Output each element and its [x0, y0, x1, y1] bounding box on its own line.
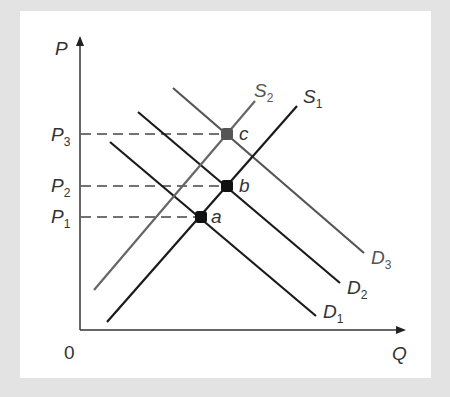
- p2-label: P2: [51, 175, 71, 200]
- p3-label: P3: [51, 124, 71, 149]
- d2-label: D2: [347, 277, 368, 302]
- origin-label: 0: [64, 342, 75, 363]
- d3-label: D3: [371, 247, 392, 272]
- demand-curve-d3: [173, 88, 364, 253]
- point-c-label: c: [239, 123, 249, 144]
- p1-label: P1: [51, 206, 71, 231]
- d1-label: D1: [323, 301, 344, 326]
- point-a-label: a: [211, 206, 222, 227]
- s2-label: S2: [254, 80, 274, 105]
- point-b-label: b: [239, 175, 250, 196]
- supply-demand-diagram: P Q 0 P3 P2 P1 S2 S1 D3 D2 D1 a b c: [0, 0, 450, 397]
- y-axis-label: P: [55, 38, 68, 59]
- point-c: [221, 128, 233, 140]
- point-a: [195, 211, 207, 223]
- s1-label: S1: [303, 86, 323, 111]
- x-axis-label: Q: [392, 343, 407, 364]
- point-b: [221, 180, 233, 192]
- demand-curve-d1: [110, 142, 316, 316]
